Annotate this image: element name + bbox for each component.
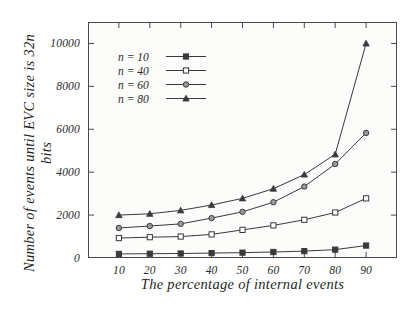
x-tick-label: 20 [144, 264, 156, 276]
series-1 [116, 196, 368, 241]
legend-marker-filled-square-icon [164, 51, 208, 62]
x-tick-label: 30 [175, 264, 187, 276]
legend-marker-filled-triangle-icon [164, 93, 208, 104]
x-tick-label: 50 [237, 264, 249, 276]
x-axis-title: The percentage of internal events [88, 276, 397, 293]
legend-item-label: n = 10 [118, 51, 164, 63]
legend-item: n = 60 [118, 78, 208, 91]
x-tick-label: 60 [267, 264, 279, 276]
x-tick-label: 90 [360, 264, 372, 276]
series-2 [116, 130, 369, 230]
series-0 [116, 243, 368, 257]
legend-marker-circle-icon [164, 79, 208, 90]
x-tick-label: 10 [113, 264, 125, 276]
x-tick-label: 40 [206, 264, 218, 276]
chart-figure: 0200040006000800010000 10203040506070809… [0, 0, 416, 309]
chart-legend: n = 10n = 40n = 60n = 80 [118, 50, 208, 105]
legend-item-label: n = 60 [118, 79, 164, 91]
legend-item: n = 40 [118, 64, 208, 77]
x-tick-label: 70 [298, 264, 310, 276]
legend-item: n = 80 [118, 92, 208, 105]
legend-marker-open-square-icon [164, 65, 208, 76]
legend-item: n = 10 [118, 50, 208, 63]
legend-item-label: n = 80 [118, 93, 164, 105]
y-axis-title: Number of events until EVC size is 32n b… [21, 23, 55, 283]
legend-item-label: n = 40 [118, 65, 164, 77]
x-tick-label: 80 [329, 264, 341, 276]
